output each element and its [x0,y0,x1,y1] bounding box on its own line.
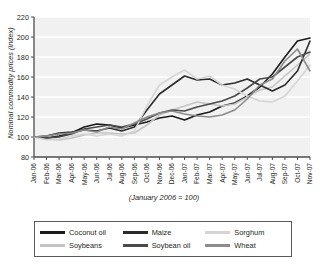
x-tick-label: Mar-07 [206,163,213,184]
legend-label-sorghum: Sorghum [234,228,264,237]
x-tick-label: Jun-06 [93,163,100,183]
y-tick-label: 100 [17,133,29,142]
legend-item-soybean-oil[interactable]: Soybean oil [123,239,204,252]
x-tick-label: Nov-07 [306,163,313,185]
x-tick-label: Jul-06 [106,163,113,181]
legend-item-soybeans[interactable]: Soybeans [40,239,121,252]
y-tick-label: 180 [17,53,29,62]
x-tick-label: Nov-06 [156,163,163,185]
commodity-price-chart-figure: Nominal commodity prices (index) 8010012… [0,0,328,271]
legend-label-coconut-oil: Coconut oil [69,228,106,237]
chart-legend: Coconut oilMaizeSorghumSoybeansSoybean o… [34,221,292,257]
chart-base-note: (January 2006 = 100) [0,193,328,202]
legend-grid: Coconut oilMaizeSorghumSoybeansSoybean o… [40,226,286,252]
legend-item-maize[interactable]: Maize [123,226,204,239]
x-tick-label: Oct-07 [294,163,301,183]
legend-label-wheat: Wheat [234,241,255,250]
x-tick-label: Jul-07 [256,163,263,181]
x-axis-ticks: Jan-06Feb-06Mar-06Apr-06May-06Jun-06Jul-… [30,157,313,185]
legend-label-soybean-oil: Soybean oil [152,241,191,250]
legend-swatch-soybean-oil [123,244,148,247]
y-tick-label: 220 [17,13,29,22]
x-tick-label: Oct-06 [143,163,150,183]
y-tick-label: 80 [21,153,29,162]
legend-swatch-wheat [205,244,230,247]
legend-swatch-sorghum [205,231,230,234]
x-tick-label: Feb-07 [193,163,200,184]
y-axis-ticks: 80100120140160180200220 [17,13,34,162]
x-tick-label: Apr-07 [219,163,227,183]
y-tick-label: 160 [17,73,29,82]
y-tick-label: 200 [17,33,29,42]
legend-swatch-soybeans [40,244,65,247]
x-tick-label: May-07 [231,163,239,185]
x-tick-label: Jan-06 [30,163,37,183]
legend-item-wheat[interactable]: Wheat [205,239,286,252]
x-tick-label: Apr-06 [68,163,76,183]
x-tick-label: Feb-06 [43,163,50,184]
legend-label-maize: Maize [152,228,172,237]
x-tick-label: Sep-07 [281,163,289,185]
x-tick-label: Dec-06 [168,163,175,185]
x-tick-label: Jun-07 [244,163,251,183]
legend-item-sorghum[interactable]: Sorghum [205,226,286,239]
x-tick-label: Aug-07 [269,163,277,185]
x-tick-label: Mar-06 [55,163,62,184]
y-tick-label: 140 [17,93,29,102]
legend-label-soybeans: Soybeans [69,241,102,250]
chart-plot-area: Nominal commodity prices (index) 8010012… [0,0,328,215]
x-tick-label: Sep-06 [131,163,139,185]
legend-swatch-maize [123,231,148,234]
y-tick-label: 120 [17,113,29,122]
x-tick-label: Jan-07 [181,163,188,183]
x-tick-label: Aug-06 [118,163,126,185]
legend-item-coconut-oil[interactable]: Coconut oil [40,226,121,239]
legend-swatch-coconut-oil [40,231,65,234]
line-chart-svg: 80100120140160180200220 Jan-06Feb-06Mar-… [0,0,328,215]
x-tick-label: May-06 [81,163,89,185]
